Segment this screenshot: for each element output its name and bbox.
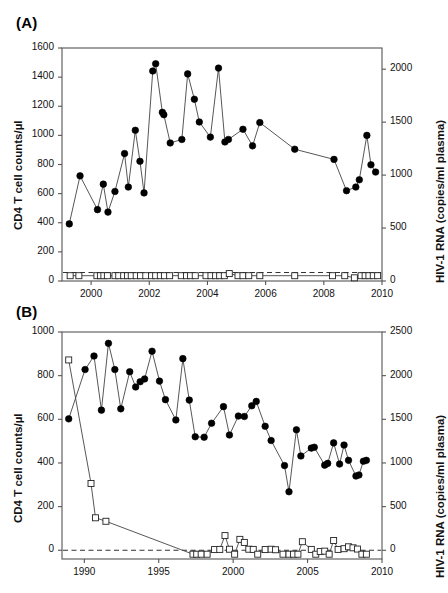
data-point-cd4 (192, 433, 199, 440)
data-point-cd4 (345, 457, 352, 464)
panel-a-ytick-left: 600 (18, 187, 54, 198)
data-point-viral-load (104, 273, 110, 279)
data-point-viral-load (67, 273, 73, 279)
panel-b-ytick-left: 600 (18, 412, 54, 423)
data-point-cd4 (262, 423, 269, 430)
data-point-viral-load (232, 551, 238, 557)
panel-b-ytick-left: 200 (18, 500, 54, 511)
figure-container: (A) CD4 T cell counts/µl HIV-1 RNA (copi… (0, 0, 448, 593)
panel-a-xtick: 2008 (304, 288, 344, 299)
panel-a: (A) CD4 T cell counts/µl HIV-1 RNA (copi… (0, 0, 448, 300)
data-point-viral-load (280, 551, 286, 557)
data-point-cd4 (291, 146, 298, 153)
data-point-cd4 (364, 132, 371, 139)
data-point-cd4 (141, 376, 148, 383)
data-point-cd4 (286, 488, 293, 495)
panel-b-ytick-left: 1000 (18, 325, 54, 336)
data-point-cd4 (105, 340, 112, 347)
data-point-cd4 (372, 169, 379, 176)
data-point-cd4 (324, 460, 331, 467)
panel-b-ytick-right: 500 (390, 500, 407, 511)
data-point-cd4 (201, 434, 208, 441)
data-point-cd4 (208, 420, 215, 427)
data-point-cd4 (249, 143, 256, 150)
data-point-viral-load (226, 271, 232, 277)
panel-a-xtick: 2004 (187, 288, 227, 299)
data-point-cd4 (293, 426, 300, 433)
data-point-cd4 (368, 161, 375, 168)
data-point-cd4 (353, 184, 360, 191)
data-point-cd4 (235, 413, 242, 420)
data-point-cd4 (100, 181, 107, 188)
data-point-cd4 (125, 184, 132, 191)
data-point-cd4 (112, 366, 119, 373)
panel-a-xtick: 2002 (129, 288, 169, 299)
data-point-cd4 (330, 440, 337, 447)
series-line-viral-load (69, 360, 367, 554)
data-point-viral-load (292, 273, 298, 279)
data-point-cd4 (149, 348, 156, 355)
data-point-viral-load (167, 273, 173, 279)
data-point-cd4 (311, 444, 318, 451)
panel-b-ytick-right: 1500 (390, 412, 412, 423)
panel-b-xtick: 2010 (362, 566, 402, 577)
panel-a-ytick-right: 500 (390, 221, 407, 232)
data-point-cd4 (112, 188, 119, 195)
data-point-viral-load (363, 551, 369, 557)
data-point-viral-load (240, 273, 246, 279)
data-point-viral-load (88, 480, 94, 486)
series-markers-viral-load (66, 357, 370, 557)
panel-b-ytick-left: 400 (18, 456, 54, 467)
data-point-cd4 (179, 136, 186, 143)
data-point-viral-load (143, 273, 149, 279)
series-markers-cd4 (66, 60, 379, 227)
data-point-cd4 (196, 119, 203, 126)
data-point-viral-load (335, 546, 341, 552)
data-point-viral-load (76, 273, 82, 279)
panel-b-ytick-right: 2500 (390, 325, 412, 336)
data-point-cd4 (77, 173, 84, 180)
data-point-viral-load (330, 273, 336, 279)
data-point-cd4 (215, 65, 222, 72)
data-point-viral-load (66, 357, 72, 363)
panel-b-ytick-right: 2000 (390, 369, 412, 380)
data-point-cd4 (117, 406, 124, 413)
data-point-cd4 (363, 457, 370, 464)
data-point-viral-load (299, 539, 305, 545)
panel-b-ytick-left: 800 (18, 369, 54, 380)
data-point-cd4 (65, 416, 72, 423)
panel-a-xtick: 2006 (246, 288, 286, 299)
data-point-viral-load (103, 518, 109, 524)
data-point-cd4 (356, 472, 363, 479)
panel-a-ytick-right: 1000 (390, 168, 412, 179)
data-point-cd4 (132, 127, 139, 134)
data-point-cd4 (105, 209, 112, 216)
data-point-cd4 (281, 462, 288, 469)
data-point-cd4 (253, 398, 260, 405)
data-point-cd4 (141, 190, 148, 197)
data-point-viral-load (326, 551, 332, 557)
data-point-cd4 (184, 71, 191, 78)
data-point-viral-load (92, 515, 98, 521)
panel-b-plot (0, 295, 448, 593)
data-point-cd4 (167, 140, 174, 147)
panel-a-ytick-left: 1000 (18, 128, 54, 139)
data-point-cd4 (220, 403, 227, 410)
data-point-viral-load (375, 273, 381, 279)
data-point-cd4 (121, 150, 128, 157)
panel-b-xtick: 2005 (288, 566, 328, 577)
data-point-viral-load (273, 547, 279, 553)
data-point-cd4 (343, 187, 350, 194)
panel-b-xtick: 2000 (213, 566, 253, 577)
panel-a-ytick-left: 200 (18, 245, 54, 256)
panel-a-ytick-left: 1400 (18, 70, 54, 81)
data-point-cd4 (66, 221, 73, 228)
data-point-cd4 (341, 442, 348, 449)
data-point-cd4 (152, 60, 159, 67)
data-point-cd4 (257, 119, 264, 126)
data-point-cd4 (156, 378, 163, 385)
panel-a-ytick-left: 1600 (18, 41, 54, 52)
panel-b-xtick: 1990 (64, 566, 104, 577)
data-point-viral-load (257, 273, 263, 279)
data-point-cd4 (226, 432, 233, 439)
